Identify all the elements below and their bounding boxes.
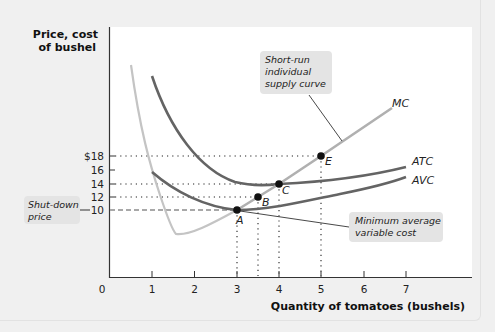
x-tick-7: 7 — [403, 283, 410, 295]
point-e-label: E — [325, 155, 332, 168]
x-tick-4: 4 — [276, 283, 283, 295]
x-tick-1: 1 — [149, 283, 156, 295]
y-tick-labels: $18 16 14 12 10 — [84, 150, 104, 216]
avc-label: AVC — [411, 174, 435, 187]
point-c-label: C — [282, 184, 290, 197]
point-a-label: A — [235, 214, 244, 227]
atc-label: ATC — [411, 155, 433, 168]
supply-callout-line2: individual — [265, 66, 311, 77]
x-axis-label: Quantity of tomatoes (bushels) — [271, 300, 465, 313]
x-tick-labels: 0 1 2 3 4 5 6 7 — [99, 283, 410, 295]
supply-callout-line1: Short-run — [265, 54, 310, 65]
x-tick-0: 0 — [99, 283, 106, 295]
y-tick-14: 14 — [91, 178, 105, 190]
x-tick-5: 5 — [318, 283, 325, 295]
min-avc-callout-line2: variable cost — [355, 227, 417, 238]
mc-label: MC — [392, 97, 409, 110]
shutdown-callout-line1: Shut-down — [28, 199, 79, 210]
y-axis-label-line2: of bushel — [39, 41, 97, 54]
cost-curves-chart: Price, cost of bushel $18 16 14 12 10 — [0, 0, 495, 332]
point-a — [233, 206, 241, 214]
x-tick-6: 6 — [361, 283, 368, 295]
point-e — [317, 152, 325, 160]
shutdown-callout-line2: price — [27, 211, 52, 222]
y-axis-label: Price, cost — [33, 28, 98, 41]
supply-callout-line3: supply curve — [265, 78, 326, 89]
y-tick-18: $18 — [84, 150, 104, 162]
y-tick-10: 10 — [91, 204, 104, 216]
y-tick-12: 12 — [91, 191, 104, 203]
min-avc-callout-line1: Minimum average — [355, 215, 441, 226]
figure-frame: Price, cost of bushel $18 16 14 12 10 — [0, 0, 495, 332]
point-b — [254, 193, 262, 201]
point-b-label: B — [262, 196, 270, 209]
x-tick-2: 2 — [191, 283, 198, 295]
y-tick-16: 16 — [91, 164, 105, 176]
x-tick-3: 3 — [234, 283, 241, 295]
